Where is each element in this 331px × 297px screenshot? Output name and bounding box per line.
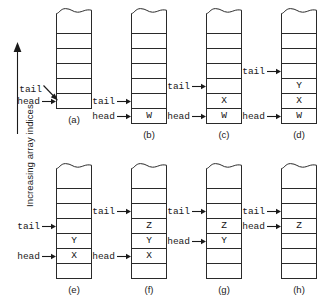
array-cell — [131, 49, 167, 64]
head-pointer-g: head — [162, 235, 206, 249]
head-pointer-d-label: head — [242, 110, 265, 124]
panel-caption-b: (b) — [131, 129, 167, 140]
panel-caption-d: (d) — [281, 129, 317, 140]
array-cell — [206, 34, 242, 49]
array-cell: Y — [281, 79, 317, 94]
array-cell — [56, 264, 92, 279]
right-arrow-icon — [192, 237, 206, 246]
array-cell — [131, 174, 167, 189]
array-cell — [206, 174, 242, 189]
torn-edge-icon — [131, 8, 167, 19]
array-cell — [281, 189, 317, 204]
torn-edge-icon — [281, 8, 317, 19]
right-arrow-icon — [267, 222, 281, 231]
panel-caption-e: (e) — [56, 284, 92, 295]
head-pointer-h: head — [237, 220, 281, 234]
right-arrow-icon — [42, 222, 56, 231]
array-cell — [56, 34, 92, 49]
array-cell: X — [281, 94, 317, 109]
tail-pointer-d-label: tail — [242, 65, 265, 79]
right-arrow-icon — [117, 112, 131, 121]
right-arrow-icon — [117, 207, 131, 216]
panel-caption-f: (f) — [131, 284, 167, 295]
array-cell — [206, 249, 242, 264]
tail-pointer-h-label: tail — [242, 205, 265, 219]
array-cell — [56, 189, 92, 204]
array-cell — [56, 64, 92, 79]
array-cell — [131, 19, 167, 34]
right-arrow-icon — [192, 82, 206, 91]
array-cell: Y — [206, 234, 242, 249]
array-cell — [131, 94, 167, 109]
head-pointer-f-label: head — [92, 250, 115, 264]
panel-caption-h: (h) — [281, 284, 317, 295]
torn-edge-icon — [56, 163, 92, 174]
tail-pointer-d: tail — [237, 65, 281, 79]
tail-pointer-c: tail — [162, 80, 206, 94]
array-cell — [131, 34, 167, 49]
torn-edge-icon — [56, 8, 92, 19]
array-cell — [206, 189, 242, 204]
array-cell — [281, 64, 317, 79]
array-cell — [281, 19, 317, 34]
head-pointer-f: head — [87, 250, 131, 264]
array-cell — [281, 49, 317, 64]
right-arrow-icon — [267, 112, 281, 121]
head-pointer-b-label: head — [92, 110, 115, 124]
array-cell — [131, 64, 167, 79]
array-cell — [206, 264, 242, 279]
array-column-b: W — [131, 8, 167, 124]
array-column-d: YXW — [281, 8, 317, 124]
right-arrow-icon — [117, 252, 131, 261]
array-cell: Y — [56, 234, 92, 249]
head-pointer-d: head — [237, 110, 281, 124]
head-pointer-g-label: head — [167, 235, 190, 249]
array-cell — [281, 174, 317, 189]
array-column-h: Z — [281, 163, 317, 279]
right-arrow-icon — [117, 97, 131, 106]
array-cell: X — [206, 94, 242, 109]
panel-caption-c: (c) — [206, 129, 242, 140]
array-cell — [206, 79, 242, 94]
array-cell — [131, 189, 167, 204]
array-cell — [56, 219, 92, 234]
tail-pointer-g: tail — [162, 205, 206, 219]
tail-pointer-e-label: tail — [17, 220, 40, 234]
torn-edge-icon — [281, 163, 317, 174]
head-pointer-h-label: head — [242, 220, 265, 234]
array-cell — [281, 234, 317, 249]
head-pointer-b: head — [87, 110, 131, 124]
right-arrow-icon — [267, 67, 281, 76]
array-cell: Z — [281, 219, 317, 234]
torn-edge-icon — [206, 8, 242, 19]
right-arrow-icon — [267, 207, 281, 216]
array-cell — [56, 49, 92, 64]
head-pointer-e-label: head — [17, 250, 40, 264]
array-cell: W — [281, 109, 317, 124]
array-cell — [281, 249, 317, 264]
tail-pointer-f: tail — [87, 205, 131, 219]
right-arrow-icon — [42, 252, 56, 261]
array-cell — [131, 264, 167, 279]
array-cell: X — [131, 249, 167, 264]
head-pointer-a-label: head — [17, 95, 40, 109]
array-cell — [206, 49, 242, 64]
right-arrow-icon — [192, 112, 206, 121]
array-column-f: ZYX — [131, 163, 167, 279]
tail-pointer-b-label: tail — [92, 95, 115, 109]
array-cell: Z — [131, 219, 167, 234]
torn-edge-icon — [206, 163, 242, 174]
panel-caption-g: (g) — [206, 284, 242, 295]
head-pointer-a: head — [12, 95, 56, 109]
head-pointer-e: head — [12, 250, 56, 264]
tail-pointer-f-label: tail — [92, 205, 115, 219]
array-cell — [281, 204, 317, 219]
torn-edge-icon — [131, 163, 167, 174]
tail-pointer-c-label: tail — [167, 80, 190, 94]
array-cell — [56, 174, 92, 189]
array-cell — [281, 264, 317, 279]
tail-pointer-h: tail — [237, 205, 281, 219]
right-arrow-icon — [192, 207, 206, 216]
tail-pointer-b: tail — [87, 95, 131, 109]
array-cell — [56, 79, 92, 94]
